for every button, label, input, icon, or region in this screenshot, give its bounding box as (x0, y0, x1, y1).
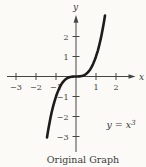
y-tick-label: −3 (57, 133, 69, 142)
x-tick-label: −2 (30, 83, 42, 92)
y-tick-label: −1 (57, 93, 69, 102)
x-tick-label: 2 (113, 83, 118, 92)
y-axis-label: y (72, 2, 79, 12)
y-tick-label: −2 (57, 113, 69, 122)
x-axis-label: x (139, 72, 144, 82)
x-tick-label: 1 (93, 83, 98, 92)
y-tick-label: 1 (63, 53, 68, 62)
equation-exponent: 3 (131, 119, 136, 127)
graph-svg: x −3−2−112 y −3−2−112 y = x3 Original Gr… (0, 0, 146, 167)
cubic-function-figure: x −3−2−112 y −3−2−112 y = x3 Original Gr… (0, 0, 146, 167)
y-tick-label: 2 (63, 33, 68, 42)
equation-base: y = x (105, 119, 131, 130)
figure-caption: Original Graph (47, 154, 119, 165)
y-axis-arrow-icon (74, 15, 79, 23)
equation-label: y = x3 (105, 119, 136, 131)
x-ticks-group: −3−2−112 (10, 73, 118, 92)
x-tick-label: −3 (10, 83, 22, 92)
x-axis-arrow-icon (129, 74, 136, 79)
